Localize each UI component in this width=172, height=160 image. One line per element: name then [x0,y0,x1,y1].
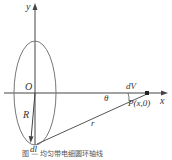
radius-line [31,93,35,139]
figure-caption: 图 — 均匀带电细圆环轴线 [22,148,162,158]
radius-label: R [23,110,29,120]
point-p-marker [145,91,149,95]
diagram-canvas [0,0,172,160]
distance-label: r [91,119,95,128]
point-p-label: P(x,0) [128,99,150,108]
angle-label: θ [104,94,108,103]
x-axis-label: x [160,96,164,106]
y-axis-arrow-icon [33,3,38,10]
y-axis-label: y [26,2,30,12]
origin-label: O [25,82,32,92]
volume-element-label: dV [126,82,136,91]
radius-arrow-icon [29,136,34,143]
